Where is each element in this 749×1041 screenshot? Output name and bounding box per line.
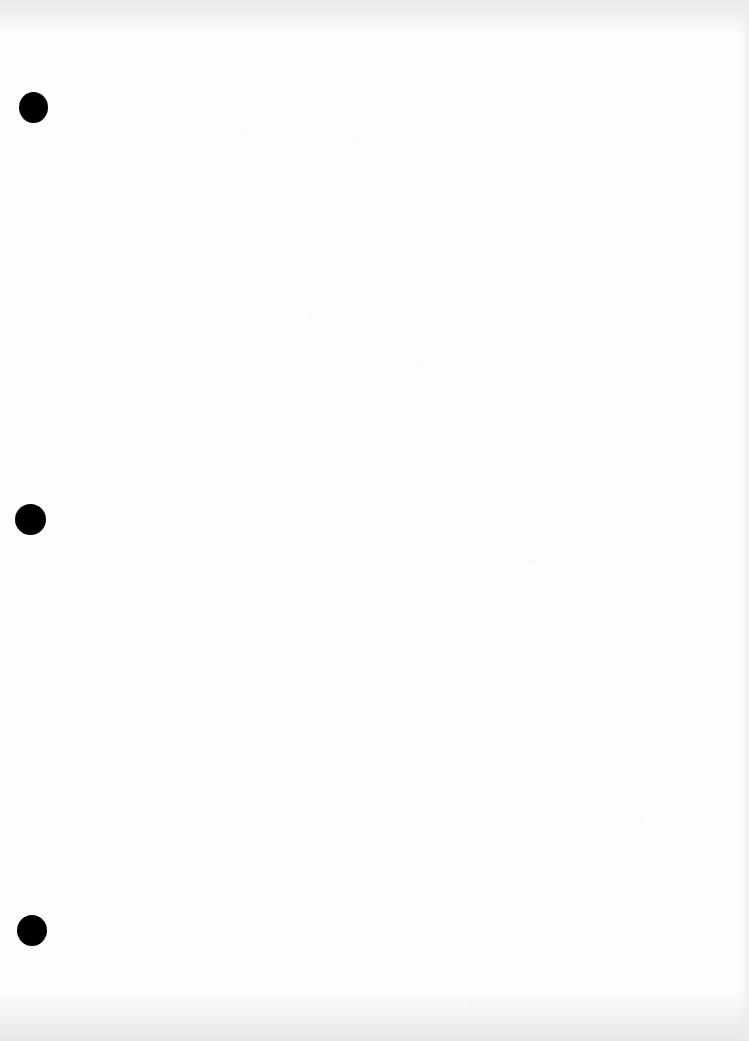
punch-hole-middle bbox=[15, 504, 46, 535]
scan-noise-top-edge bbox=[0, 0, 749, 34]
paper-speckle bbox=[310, 317, 311, 318]
punch-hole-bottom bbox=[17, 915, 47, 946]
paper-speckle bbox=[640, 820, 641, 821]
punch-hole-top bbox=[19, 92, 48, 123]
scanned-page bbox=[0, 0, 749, 1041]
scan-noise-bottom-edge bbox=[0, 991, 749, 1041]
paper-speckle bbox=[420, 365, 421, 366]
paper-speckle bbox=[530, 560, 531, 561]
paper-speckle bbox=[245, 130, 246, 131]
scan-noise-right-edge bbox=[739, 0, 749, 1041]
paper-speckle bbox=[355, 140, 356, 141]
paper-speckle bbox=[470, 1000, 471, 1001]
